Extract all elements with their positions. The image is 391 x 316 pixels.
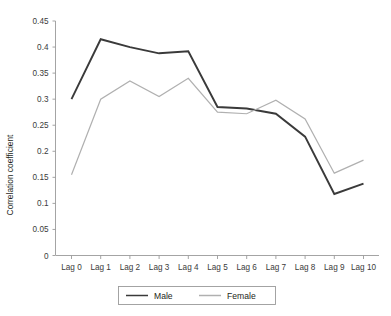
x-tick-label: Lag 8 bbox=[295, 263, 316, 272]
y-tick-label: 0.25 bbox=[33, 121, 49, 130]
x-tick-label: Lag 4 bbox=[178, 263, 199, 272]
chart-canvas: Correlation coefficient 00.050.10.150.20… bbox=[0, 0, 391, 316]
chart-legend: Male Female bbox=[119, 287, 276, 305]
x-axis-tick-labels: Lag 0Lag 1Lag 2Lag 3Lag 4Lag 5Lag 6Lag 7… bbox=[61, 263, 376, 272]
y-tick-label: 0 bbox=[44, 252, 49, 261]
y-tick-label: 0.05 bbox=[33, 225, 49, 234]
x-tick-label: Lag 7 bbox=[266, 263, 287, 272]
x-tick-label: Lag 1 bbox=[90, 263, 111, 272]
x-tick-label: Lag 2 bbox=[120, 263, 141, 272]
x-tick-label: Lag 0 bbox=[61, 263, 82, 272]
y-axis-title: Correlation coefficient bbox=[5, 134, 15, 216]
y-tick-label: 0.4 bbox=[37, 43, 49, 52]
legend-label-male: Male bbox=[154, 291, 173, 301]
y-tick-label: 0.35 bbox=[33, 69, 49, 78]
series-line-female bbox=[72, 78, 364, 174]
series-line-male bbox=[72, 39, 364, 194]
y-tick-label: 0.3 bbox=[37, 95, 49, 104]
data-series-group bbox=[72, 39, 364, 194]
y-tick-label: 0.1 bbox=[37, 199, 49, 208]
x-tick-label: Lag 5 bbox=[207, 263, 228, 272]
x-tick-label: Lag 10 bbox=[351, 263, 376, 272]
y-tick-label: 0.45 bbox=[33, 17, 49, 26]
y-axis-tick-labels: 00.050.10.150.20.250.30.350.40.45 bbox=[33, 17, 49, 261]
x-tick-label: Lag 3 bbox=[149, 263, 170, 272]
y-tick-label: 0.2 bbox=[37, 147, 49, 156]
legend-label-female: Female bbox=[227, 291, 256, 301]
x-tick-label: Lag 6 bbox=[236, 263, 257, 272]
correlation-lag-chart: Correlation coefficient 00.050.10.150.20… bbox=[0, 0, 391, 316]
y-axis-title-label: Correlation coefficient bbox=[5, 134, 15, 216]
y-tick-label: 0.15 bbox=[33, 173, 49, 182]
x-axis-tick-marks bbox=[72, 256, 364, 260]
x-tick-label: Lag 9 bbox=[324, 263, 345, 272]
